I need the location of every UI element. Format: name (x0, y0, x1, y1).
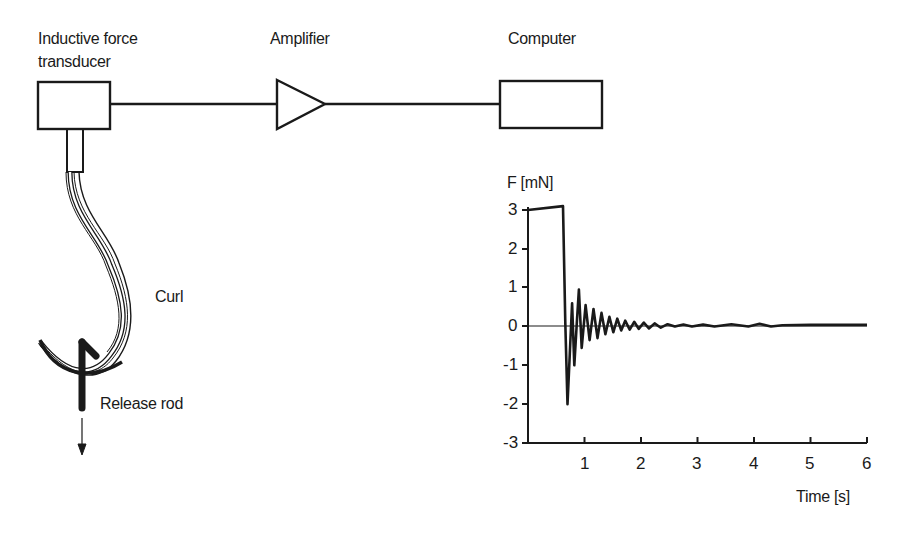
y-tick: -1 (503, 356, 518, 374)
y-tick: -3 (503, 434, 518, 452)
x-tick: 4 (749, 455, 758, 473)
y-axis-label: F [mN] (507, 174, 553, 192)
y-tick: -2 (503, 395, 518, 413)
x-tick: 5 (805, 455, 814, 473)
y-tick: 2 (508, 240, 517, 258)
release-rod-label: Release rod (100, 395, 183, 413)
computer-label: Computer (508, 30, 576, 48)
transducer-label-line2: transducer (38, 53, 111, 71)
force-trace (528, 206, 867, 404)
transducer-stub (67, 129, 83, 172)
pull-arrow-icon (78, 418, 86, 455)
x-tick: 6 (862, 455, 871, 473)
x-tick: 3 (692, 455, 701, 473)
y-tick: 3 (508, 201, 517, 219)
amplifier-label: Amplifier (270, 30, 330, 48)
transducer-box (38, 82, 110, 129)
x-tick: 1 (580, 455, 589, 473)
x-tick: 2 (636, 455, 645, 473)
y-tick: 0 (508, 317, 517, 335)
curl-label: Curl (155, 288, 183, 306)
diagram-canvas (0, 0, 905, 533)
x-axis-label: Time [s] (796, 488, 850, 506)
y-tick: 1 (508, 278, 517, 296)
amplifier-triangle (277, 80, 325, 129)
computer-box (500, 81, 602, 128)
transducer-label-line1: Inductive force (38, 30, 138, 48)
